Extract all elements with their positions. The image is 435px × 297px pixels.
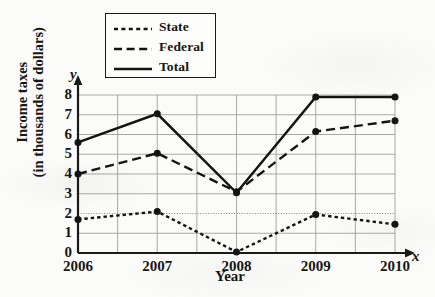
x-tick-2009: 2009	[288, 259, 344, 274]
legend-label-total: Total	[159, 59, 189, 75]
y-axis-title-line1: Income taxes	[14, 14, 30, 190]
chart-axes	[74, 75, 415, 257]
legend-item-total: Total	[106, 57, 217, 77]
legend-swatch-total	[113, 61, 153, 73]
legend-item-state: State	[106, 17, 217, 37]
y-tick-4: 4	[56, 166, 72, 181]
x-tick-2007: 2007	[129, 259, 185, 274]
y-tick-2: 2	[56, 206, 72, 221]
legend-item-federal: Federal	[106, 37, 217, 57]
y-tick-5: 5	[56, 146, 72, 161]
y-tick-8: 8	[56, 87, 72, 102]
y-tick-7: 7	[56, 107, 72, 122]
y-tick-3: 3	[56, 186, 72, 201]
y-axis-title: Income taxes (in thousands of dollars)	[14, 14, 46, 190]
y-axis-variable-label: y	[70, 66, 77, 83]
legend-swatch-federal	[113, 41, 153, 53]
legend-swatch-state	[113, 21, 153, 33]
chart-legend: StateFederalTotal	[105, 13, 216, 78]
y-tick-1: 1	[56, 225, 72, 240]
income-taxes-line-chart: Income taxes (in thousands of dollars) Y…	[0, 0, 435, 297]
y-axis-title-line2: (in thousands of dollars)	[30, 14, 46, 190]
x-tick-2006: 2006	[50, 259, 106, 274]
legend-label-state: State	[159, 19, 189, 35]
legend-label-federal: Federal	[159, 39, 204, 55]
x-tick-2008: 2008	[209, 259, 265, 274]
x-tick-2010: 2010	[367, 259, 423, 274]
y-tick-6: 6	[56, 127, 72, 142]
